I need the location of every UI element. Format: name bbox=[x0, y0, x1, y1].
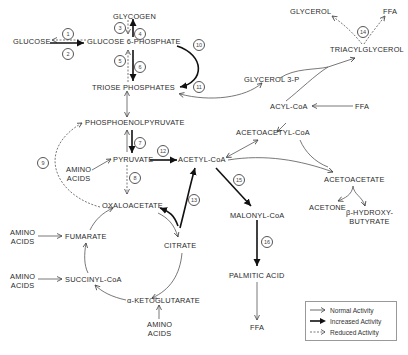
arrow-acetoacetate-acetone bbox=[338, 186, 353, 201]
step-11-badge: 11 bbox=[193, 81, 205, 93]
label-acyl-coa: ACYL-CoA bbox=[270, 103, 308, 110]
step-5-badge: 5 bbox=[114, 55, 126, 67]
legend-increased-label: Increased Activity bbox=[330, 318, 381, 325]
label-amino-acids-succinyl: AMINO ACIDS bbox=[10, 273, 35, 290]
legend-reduced-label: Reduced Activity bbox=[330, 329, 379, 336]
step-14-badge: 14 bbox=[357, 26, 369, 38]
arrow-oaa-citrate bbox=[158, 213, 178, 237]
label-oxaloacetate: OXALOACETATE bbox=[102, 202, 163, 209]
label-triacylglycerol: TRIACYLGLYCEROL bbox=[330, 46, 404, 53]
step-13-badge: 13 bbox=[188, 194, 200, 206]
label-amino-acids-fumarate: AMINO ACIDS bbox=[10, 229, 35, 246]
label-malonyl-coa: MALONYL-CoA bbox=[230, 212, 284, 219]
label-triose-phosphates: TRIOSE PHOSPHATES bbox=[92, 84, 175, 91]
label-pyruvate: PYRUVATE bbox=[113, 156, 153, 163]
dashed-arrow-icon bbox=[310, 328, 326, 336]
arrow-glucose-g6p bbox=[50, 40, 86, 43]
label-phosphoenolpyruvate: PHOSPHOENOLPYRUVATE bbox=[85, 119, 185, 126]
label-alpha-ketoglutarate: α-KETOGLUTARATE bbox=[127, 297, 200, 304]
bold-arrow-icon bbox=[310, 317, 326, 325]
amino-line2: ACIDS bbox=[66, 175, 91, 184]
label-citrate: CITRATE bbox=[164, 242, 196, 249]
legend-normal: Normal Activity bbox=[310, 305, 374, 315]
amino-line2: ACIDS bbox=[10, 238, 35, 247]
step-8-badge: 8 bbox=[129, 172, 141, 184]
step-10-badge: 10 bbox=[193, 39, 205, 51]
step-2-badge: 2 bbox=[62, 48, 74, 60]
arrow-acetoacetate-bhb bbox=[353, 186, 365, 206]
label-amino-acids-akg: AMINO ACIDS bbox=[147, 321, 172, 338]
arrow-15 bbox=[216, 168, 251, 206]
label-ffa-acyl: FFA bbox=[355, 103, 369, 110]
label-acetyl-coa: ACETYL-CoA bbox=[178, 156, 226, 163]
label-glycogen: GLYCOGEN bbox=[113, 13, 156, 20]
amino-line2: ACIDS bbox=[147, 330, 172, 339]
label-glucose: GLUCOSE bbox=[13, 38, 51, 45]
amino-line2: ACIDS bbox=[10, 282, 35, 291]
label-fumarate: FUMARATE bbox=[65, 233, 107, 240]
arrow-fumarate-oaa bbox=[90, 208, 113, 230]
label-beta-hydroxybutyrate: β-HYDROXY- BUTYRATE bbox=[346, 209, 393, 226]
label-palmitic-acid: PALMITIC ACID bbox=[229, 272, 284, 279]
normal-arrow-icon bbox=[310, 306, 326, 314]
label-glucose-6-phosphate: GLUCOSE 6-PHOSPHATE bbox=[87, 38, 181, 45]
step-4-badge: 4 bbox=[134, 28, 146, 40]
step-9-badge: 9 bbox=[37, 157, 49, 169]
label-acetoacetate: ACETOACETATE bbox=[324, 176, 385, 183]
label-glycerol: GLYCEROL bbox=[290, 8, 331, 15]
label-glycerol-3-p: GLYCEROL 3-P bbox=[244, 76, 299, 83]
step-6-badge: 6 bbox=[134, 61, 146, 73]
arrow-akg-succinyl bbox=[95, 285, 126, 300]
step-7-badge: 7 bbox=[134, 137, 146, 149]
label-acetoacetyl-coa: ACETOACETYL-CoA bbox=[236, 129, 310, 136]
step-16-badge: 16 bbox=[261, 236, 273, 248]
step-1-badge: 1 bbox=[62, 28, 74, 40]
legend-normal-label: Normal Activity bbox=[330, 307, 374, 314]
step-12-badge: 12 bbox=[157, 145, 169, 157]
arrow-acetyl-acetoacetyl bbox=[227, 140, 258, 157]
label-amino-acids-pyruvate: AMINO ACIDS bbox=[66, 166, 91, 183]
arrow-succinyl-fumarate bbox=[85, 243, 88, 273]
arrow-aa-pyruvate bbox=[92, 159, 111, 170]
legend: Normal Activity Increased Activity Reduc… bbox=[305, 301, 397, 341]
label-ffa-top: FFA bbox=[383, 8, 397, 15]
step-3-badge: 3 bbox=[114, 22, 126, 34]
label-acetone: ACETONE bbox=[309, 204, 346, 211]
step-15-badge: 15 bbox=[233, 174, 245, 186]
arrow-acetyl-acetoacetate bbox=[228, 158, 333, 172]
arrow-citrate-oaa bbox=[160, 208, 178, 226]
label-succinyl-coa: SUCCINYL-CoA bbox=[65, 276, 122, 283]
label-bhb-line2: BUTYRATE bbox=[346, 218, 393, 227]
legend-increased: Increased Activity bbox=[310, 316, 381, 326]
label-ffa-bottom: FFA bbox=[250, 324, 264, 331]
legend-reduced: Reduced Activity bbox=[310, 327, 379, 337]
arrow-citrate-akg bbox=[152, 253, 182, 298]
